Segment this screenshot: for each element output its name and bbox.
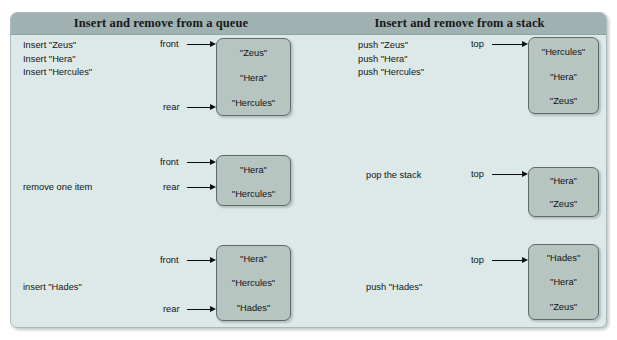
header-band: Insert and remove from a queue Insert an… [11,13,606,35]
stack-operation-line: push "Hera" [358,53,424,67]
queue-pointer-arrow-rear [187,104,216,111]
queue-pointer-label-rear: rear [163,304,180,314]
queue-pointer-arrow-rear [187,306,216,313]
stack-box: "Hercules" "Hera" "Zeus" [528,37,599,114]
stack-item: "Hera" [529,72,598,82]
queue-item: "Hades" [217,303,290,313]
stack-item: "Zeus" [529,96,598,106]
queue-operation-line: remove one item [23,181,92,195]
queue-item: "Hera" [217,165,290,175]
queue-item: "Hercules" [217,189,290,199]
stack-item: "Hercules" [529,47,598,57]
queue-pointer-arrow-front [187,159,216,166]
stack-operation-text: push "Hades" [366,281,422,295]
stack-operation-text: pop the stack [366,169,421,183]
stack-operation-line: push "Hades" [366,281,422,295]
queue-pointer-label-front: front [160,39,179,49]
stack-item: "Hera" [529,176,598,186]
figure-panel: Insert and remove from a queue Insert an… [10,12,607,328]
stack-item: "Hera" [529,277,598,287]
stack-item: "Zeus" [529,302,598,312]
stack-operation-text: push "Zeus" push "Hera" push "Hercules" [358,39,424,80]
queue-pointer-label-front: front [160,255,179,265]
stack-pointer-arrow-top [492,171,528,178]
stack-pointer-label-top: top [471,39,484,49]
queue-box: "Hera" "Hercules" "Hades" [216,245,291,321]
stack-operation-line: push "Hercules" [358,66,424,80]
stack-pointer-label-top: top [471,169,484,179]
queue-operation-line: insert "Hades" [23,281,82,295]
queue-box: "Zeus" "Hera" "Hercules" [216,38,291,116]
queue-operation-line: Insert "Hera" [23,53,92,67]
queue-item: "Zeus" [217,48,290,58]
queue-operation-text: Insert "Zeus" Insert "Hera" Insert "Herc… [23,39,92,80]
stack-item: "Hades" [529,253,598,263]
queue-pointer-arrow-rear [187,184,216,191]
queue-item: "Hera" [217,254,290,264]
queue-operation-text: insert "Hades" [23,281,82,295]
queue-pointer-arrow-front [187,257,216,264]
stack-pointer-arrow-top [492,41,528,48]
queue-item: "Hera" [217,73,290,83]
queue-operation-line: Insert "Hercules" [23,66,92,80]
queue-item: "Hercules" [217,98,290,108]
header-title-queue: Insert and remove from a queue [11,16,311,31]
queue-item: "Hercules" [217,278,290,288]
stack-box: "Hera" "Zeus" [528,167,599,217]
queue-pointer-label-rear: rear [163,182,180,192]
stack-box: "Hades" "Hera" "Zeus" [528,244,599,320]
queue-pointer-label-rear: rear [163,102,180,112]
queue-pointer-label-front: front [160,157,179,167]
stack-operation-line: pop the stack [366,169,421,183]
queue-box: "Hera" "Hercules" [216,155,291,206]
stack-item: "Zeus" [529,199,598,209]
queue-pointer-arrow-front [187,41,216,48]
header-title-stack: Insert and remove from a stack [311,16,607,31]
queue-operation-line: Insert "Zeus" [23,39,92,53]
queue-operation-text: remove one item [23,181,92,195]
stack-pointer-arrow-top [492,257,528,264]
stack-pointer-label-top: top [471,255,484,265]
stack-operation-line: push "Zeus" [358,39,424,53]
